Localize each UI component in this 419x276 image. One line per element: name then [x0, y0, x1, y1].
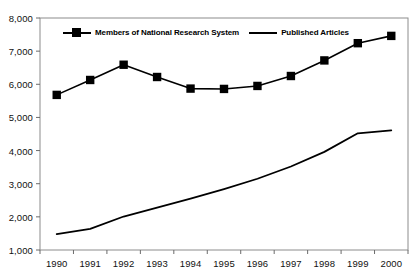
y-tick-label: 5,000: [9, 112, 33, 123]
x-tick-label: 1999: [347, 258, 369, 269]
data-point-marker: [287, 72, 295, 80]
chart-legend: Members of National Research System Publ…: [63, 27, 349, 38]
x-tick-label: 1993: [146, 258, 168, 269]
data-point-marker: [119, 61, 127, 69]
data-point-marker: [354, 39, 362, 47]
data-point-marker: [320, 56, 328, 64]
x-axis-ticks: [40, 250, 408, 254]
legend-entry-articles: Published Articles: [249, 27, 349, 38]
y-tick-label: 1,000: [9, 245, 33, 256]
x-tick-label: 2000: [380, 258, 402, 269]
y-tick-label: 2,000: [9, 211, 33, 222]
x-tick-label: 1990: [46, 258, 68, 269]
data-point-marker: [186, 84, 194, 92]
y-tick-label: 4,000: [9, 145, 33, 156]
y-tick-label: 6,000: [9, 79, 33, 90]
data-point-marker: [86, 76, 94, 84]
plot-frame: [40, 18, 408, 250]
y-axis-ticks: [36, 18, 40, 250]
plot-area: [0, 0, 419, 276]
y-tick-label: 7,000: [9, 46, 33, 57]
x-tick-label: 1996: [247, 258, 269, 269]
legend-label-members: Members of National Research System: [95, 29, 239, 37]
x-tick-label: 1995: [213, 258, 235, 269]
x-tick-label: 1998: [314, 258, 336, 269]
legend-line-square-marker-icon: [63, 27, 91, 38]
x-tick-label: 1997: [280, 258, 302, 269]
data-point-marker: [153, 73, 161, 81]
y-tick-label: 8,000: [9, 13, 33, 24]
x-tick-label: 1992: [113, 258, 135, 269]
data-point-marker: [53, 91, 61, 99]
data-point-marker: [220, 85, 228, 93]
legend-label-articles: Published Articles: [281, 29, 349, 37]
data-point-marker: [387, 32, 395, 40]
legend-line-icon: [249, 27, 277, 38]
chart-container: 1,0002,0003,0004,0005,0006,0007,0008,000…: [0, 0, 419, 276]
y-tick-label: 3,000: [9, 178, 33, 189]
data-point-marker: [253, 82, 261, 90]
x-tick-label: 1991: [79, 258, 101, 269]
legend-entry-members: Members of National Research System: [63, 27, 239, 38]
x-tick-label: 1994: [180, 258, 202, 269]
